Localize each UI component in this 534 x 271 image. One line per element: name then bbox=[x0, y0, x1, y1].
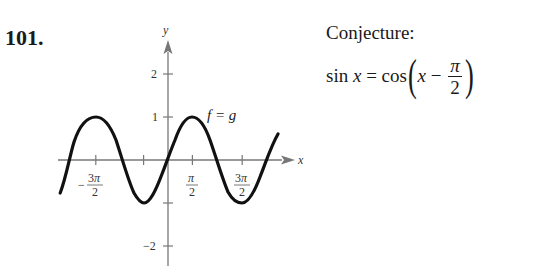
svg-text:2: 2 bbox=[189, 185, 195, 199]
equals-sign: = bbox=[366, 65, 377, 87]
x-axis-arrow-icon bbox=[281, 156, 295, 165]
y-tick-label-2: 2 bbox=[151, 67, 157, 81]
y-tick-label-1: 1 bbox=[152, 110, 158, 124]
curve-annotation: f = g bbox=[207, 107, 237, 123]
svg-text:3π: 3π bbox=[88, 171, 101, 185]
conjecture-formula: sin x = cos ( x − π 2 ) bbox=[326, 52, 474, 100]
svg-text:2: 2 bbox=[92, 185, 98, 199]
svg-text:−: − bbox=[78, 178, 85, 192]
svg-text:2: 2 bbox=[239, 185, 245, 199]
pi-over-2-fraction: π 2 bbox=[448, 56, 462, 97]
y-tick-label-neg2: −2 bbox=[143, 239, 156, 253]
y-axis-arrow-icon bbox=[164, 40, 173, 54]
svg-text:3π: 3π bbox=[235, 171, 248, 185]
frac-denominator: 2 bbox=[450, 77, 460, 97]
lhs-func: sin bbox=[326, 65, 348, 87]
x-tick-label-3pi-over-2: 3π 2 bbox=[234, 171, 250, 199]
rhs-func: cos bbox=[382, 65, 407, 87]
minus-sign: − bbox=[431, 65, 442, 87]
y-axis-label: y bbox=[162, 23, 169, 37]
frac-numerator: π bbox=[448, 56, 462, 77]
svg-text:π: π bbox=[188, 171, 195, 185]
right-paren: ) bbox=[465, 54, 474, 98]
conjecture-label: Conjecture: bbox=[326, 22, 415, 44]
rhs-var: x bbox=[418, 65, 426, 87]
lhs-var: x bbox=[353, 65, 361, 87]
x-tick-label-neg-3pi-over-2: − 3π 2 bbox=[78, 171, 103, 199]
x-axis-label: x bbox=[297, 153, 304, 167]
sine-graph: x y 2 1 −2 − 3π 2 π 2 3π 2 f = g bbox=[0, 0, 534, 271]
left-paren: ( bbox=[408, 54, 417, 98]
x-tick-label-pi-over-2: π 2 bbox=[186, 171, 198, 199]
